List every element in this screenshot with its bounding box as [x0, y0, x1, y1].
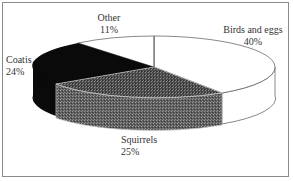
label-coatis-name: Coatis	[6, 54, 32, 66]
label-coatis-percent: 24%	[6, 66, 32, 78]
label-other-percent: 11%	[93, 24, 125, 36]
label-birds-and-eggs: Birds and eggs 40%	[223, 24, 283, 48]
label-coatis: Coatis 24%	[6, 54, 32, 78]
label-birds-and-eggs-name: Birds and eggs	[223, 24, 283, 36]
label-other-name: Other	[93, 12, 125, 24]
label-birds-and-eggs-percent: 40%	[223, 36, 283, 48]
label-squirrels: Squirrels 25%	[121, 134, 157, 158]
label-squirrels-name: Squirrels	[121, 134, 157, 146]
label-other: Other 11%	[93, 12, 125, 36]
label-squirrels-percent: 25%	[121, 146, 157, 158]
